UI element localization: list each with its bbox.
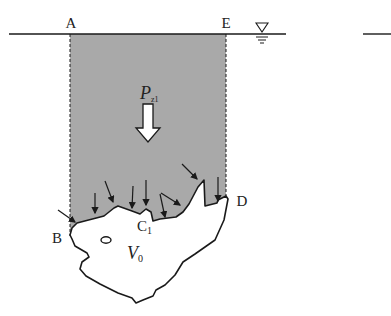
pressure-body-diagram: A E B D C1 Pz1 V0	[0, 0, 391, 316]
label-b: B	[52, 230, 62, 246]
body-cavity	[101, 237, 111, 243]
label-e: E	[221, 15, 230, 31]
label-d: D	[237, 193, 248, 209]
water-level-triangle-icon	[256, 23, 268, 43]
label-a: A	[66, 15, 77, 31]
